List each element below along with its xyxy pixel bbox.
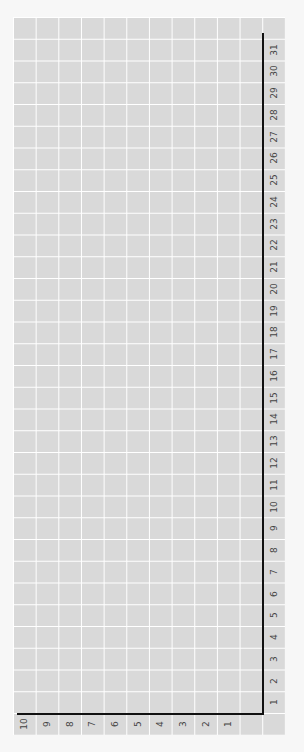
day-tick-label: 1 [268,692,280,712]
value-tick-label: 9 [41,714,53,734]
day-tick-label: 6 [268,584,280,604]
value-tick-label: 1 [222,714,234,734]
day-tick-label: 10 [268,497,280,517]
day-tick-label: 24 [268,192,280,212]
day-tick-label: 12 [268,453,280,473]
day-tick-label: 17 [268,344,280,364]
value-tick-label: 2 [200,714,212,734]
day-tick-label: 23 [268,214,280,234]
day-tick-label: 9 [268,518,280,538]
value-tick-label: 7 [86,714,98,734]
day-tick-label: 22 [268,235,280,255]
day-tick-label: 19 [268,301,280,321]
day-tick-label: 20 [268,279,280,299]
day-tick-label: 26 [268,148,280,168]
value-tick-label: 8 [64,714,76,734]
day-tick-label: 5 [268,605,280,625]
day-tick-label: 2 [268,671,280,691]
day-tick-label: 30 [268,61,280,81]
graph-grid [13,17,285,735]
day-tick-label: 21 [268,257,280,277]
day-tick-label: 8 [268,540,280,560]
value-tick-label: 10 [18,714,30,734]
day-tick-label: 14 [268,409,280,429]
day-tick-label: 3 [268,649,280,669]
value-tick-label: 6 [109,714,121,734]
value-tick-label: 5 [132,714,144,734]
day-tick-label: 13 [268,431,280,451]
day-tick-label: 28 [268,105,280,125]
day-tick-label: 15 [268,388,280,408]
day-tick-label: 27 [268,127,280,147]
day-tick-label: 16 [268,366,280,386]
day-tick-label: 7 [268,562,280,582]
day-tick-label: 18 [268,322,280,342]
day-tick-label: 11 [268,475,280,495]
day-tick-label: 25 [268,170,280,190]
value-tick-label: 3 [177,714,189,734]
day-tick-label: 29 [268,83,280,103]
day-axis-line [262,33,264,715]
day-tick-label: 31 [268,40,280,60]
value-tick-label: 4 [154,714,166,734]
day-tick-label: 4 [268,627,280,647]
